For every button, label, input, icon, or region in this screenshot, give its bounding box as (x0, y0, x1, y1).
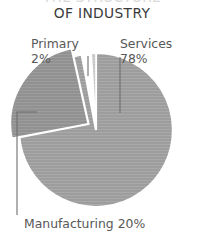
pie-chart-figure: THE STRUCTURE OF INDUSTRY (0, 0, 204, 239)
label-services-name: Services (120, 36, 172, 51)
label-services-value: 78% (120, 51, 172, 66)
label-primary: Primary 2% (31, 36, 79, 66)
label-primary-value: 2% (31, 51, 79, 66)
label-manufacturing: Manufacturing 20% (24, 216, 145, 231)
label-services: Services 78% (120, 36, 172, 66)
label-primary-name: Primary (31, 36, 79, 51)
